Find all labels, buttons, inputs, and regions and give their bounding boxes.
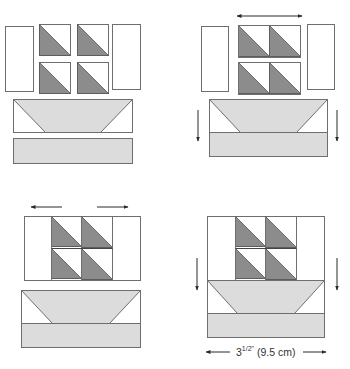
dimension-metric: (9.5 cm): [257, 346, 296, 358]
half-square-triangle: [236, 249, 266, 279]
half-square-triangle: [82, 217, 113, 248]
side-rectangle: [202, 27, 229, 92]
dimension-fraction: 1/2": [242, 345, 254, 352]
water-strip: [22, 324, 141, 348]
half-square-triangle: [78, 25, 109, 56]
dimension-label: 31/2" (9.5 cm): [236, 345, 296, 358]
step-2-panel: [198, 16, 337, 157]
boat-unit: [210, 100, 328, 133]
half-square-triangle: [270, 63, 301, 94]
half-square-triangle: [239, 63, 270, 94]
side-rectangle: [113, 25, 141, 90]
boat-unit: [14, 100, 133, 133]
half-square-triangle: [78, 63, 109, 94]
side-rectangle: [308, 25, 335, 90]
water-strip: [210, 133, 328, 157]
sailboat-block-diagram: [0, 0, 350, 369]
step-1-panel: [6, 25, 141, 164]
boat-unit: [22, 291, 141, 324]
step-4-panel: [197, 217, 337, 353]
half-square-triangle: [270, 26, 301, 57]
half-square-triangle: [40, 25, 71, 56]
water-strip: [208, 314, 325, 338]
step-3-panel: [22, 207, 141, 348]
half-square-triangle: [266, 217, 297, 248]
side-rectangle: [6, 27, 34, 92]
half-square-triangle: [266, 249, 297, 280]
half-square-triangle: [236, 217, 266, 247]
boat-unit: [208, 281, 325, 314]
half-square-triangle: [40, 63, 71, 94]
half-square-triangle: [52, 217, 82, 247]
water-strip: [14, 139, 133, 164]
half-square-triangle: [52, 249, 82, 279]
half-square-triangle: [239, 26, 270, 57]
half-square-triangle: [82, 249, 113, 280]
